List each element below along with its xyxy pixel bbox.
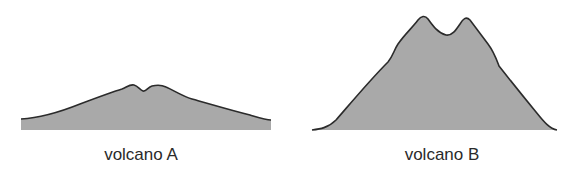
volcano-a-profile: [21, 85, 271, 130]
volcano-comparison-diagram: volcano A volcano B: [0, 0, 563, 174]
volcano-b-label: volcano B: [405, 145, 480, 165]
volcano-b-profile: [312, 16, 557, 130]
volcano-a-label: volcano A: [104, 145, 178, 165]
